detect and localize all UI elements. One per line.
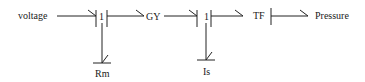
half-arrow-icon: [88, 10, 96, 16]
bond-junction2-is: [197, 23, 215, 60]
half-arrow-icon: [206, 52, 212, 60]
half-arrow-icon: [189, 10, 197, 16]
bond-gy-junction2: [164, 10, 197, 27]
node-tf-label: TF: [253, 10, 265, 21]
half-arrow-icon: [235, 10, 243, 16]
bond-graph-diagram: voltage 1 GY 1 TF Pressure Rm Is: [0, 0, 365, 82]
node-is-label: Is: [203, 66, 210, 77]
node-junction1-label: 1: [99, 11, 104, 22]
bond-voltage-junction1: [57, 10, 96, 27]
node-voltage-label: voltage: [18, 10, 48, 21]
bond-junction2-tf: [211, 10, 243, 27]
node-pressure-label: Pressure: [315, 10, 349, 21]
bond-tf-pressure: [271, 8, 308, 25]
bond-junction1-gy: [107, 10, 144, 27]
node-gy-label: GY: [146, 11, 160, 22]
node-junction2-label: 1: [204, 11, 209, 22]
half-arrow-icon: [300, 10, 308, 16]
node-rm-label: Rm: [95, 68, 110, 79]
bond-junction1-rm: [93, 23, 111, 63]
half-arrow-icon: [136, 10, 144, 16]
half-arrow-icon: [102, 55, 108, 63]
